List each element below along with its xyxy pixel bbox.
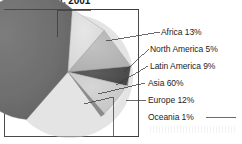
scan-artifact-band xyxy=(150,126,236,133)
pie-label-asia: Asia 60% xyxy=(148,79,184,88)
pie-chart-figure: by Continent, 2001 xyxy=(0,0,242,144)
pie-label-north-america: North America 5% xyxy=(150,45,218,54)
pie-label-africa: Africa 13% xyxy=(161,28,202,37)
pie-label-europe: Europe 12% xyxy=(148,96,194,105)
pie-label-oceania: Oceania 1% xyxy=(148,113,194,122)
pie-label-latin-america: Latin America 9% xyxy=(150,62,215,71)
pie-graphic xyxy=(0,0,242,144)
